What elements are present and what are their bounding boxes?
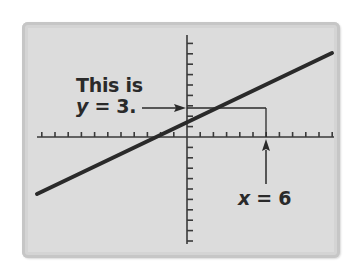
x-callout-label: x = 6 xyxy=(238,188,291,209)
x-callout-arrow xyxy=(262,139,270,184)
y-callout-label: This is y = 3. xyxy=(76,75,143,117)
coordinate-graph xyxy=(0,0,359,267)
y-callout-line2: y = 3. xyxy=(76,96,143,117)
y-axis xyxy=(187,35,193,244)
x-axis xyxy=(37,132,334,137)
y-callout-line1: This is xyxy=(76,75,143,96)
arrowhead-up-icon xyxy=(262,139,270,151)
y-callout-arrow xyxy=(142,104,186,112)
